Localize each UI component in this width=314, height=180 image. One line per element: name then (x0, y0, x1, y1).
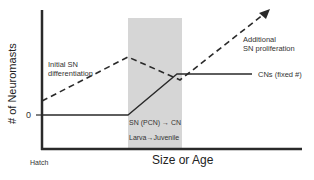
sn-pcn-cn-label: SN (PCN) → CN (129, 118, 181, 127)
transition-shaded-region (128, 18, 182, 149)
additional-sn-label: Additional (243, 35, 276, 44)
y-axis-label: # of Neuromasts (6, 44, 18, 124)
cns-fixed-label: CNs (fixed #) (258, 70, 302, 79)
initial-sn-label-2: differentiation (48, 69, 93, 78)
larva-juvenile-label: Larva→Juvenile (129, 133, 179, 142)
x-axis-label: Size or Age (152, 153, 213, 167)
initial-sn-label: Initial SN (48, 60, 78, 69)
zero-tick-label: 0 (26, 110, 31, 120)
additional-sn-label-2: SN proliferation (243, 44, 295, 53)
hatch-label: Hatch (30, 159, 48, 166)
